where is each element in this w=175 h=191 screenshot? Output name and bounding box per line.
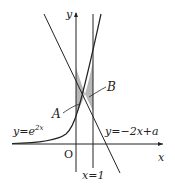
vertical-line-label: x=1 — [82, 169, 104, 182]
origin-label: O — [64, 148, 73, 161]
y-axis-label: y — [65, 8, 73, 21]
exp-curve-label-exponent: 2x — [34, 124, 43, 132]
line-label: y=−2x+a — [104, 125, 159, 138]
region-a-label: A — [51, 107, 61, 121]
exp-curve-label: y=e2x — [12, 124, 43, 138]
region-b-label: B — [106, 80, 116, 94]
exp-curve-label-base: y=e — [12, 125, 35, 138]
x-axis-label: x — [158, 151, 165, 164]
area-diagram: y x O A B y=e2x y=−2x+a x=1 — [0, 0, 175, 191]
y-axis-arrow-icon — [74, 12, 78, 17]
x-axis-arrow-icon — [158, 142, 163, 146]
